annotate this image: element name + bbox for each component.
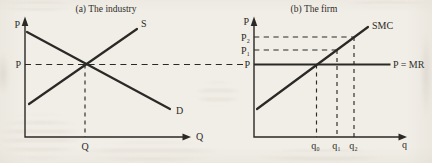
demand-curve-label: D	[176, 105, 183, 116]
smc-curve-label: SMC	[372, 20, 393, 31]
panel-firm-title: (b) The firm	[291, 4, 338, 15]
panel-firm: (b) The firm P q P₂ P₁ P q₀ q₁ q₂ P = MR	[241, 4, 425, 151]
panel-industry-title: (a) The industry	[75, 4, 136, 15]
supply-curve	[29, 29, 137, 104]
industry-x-axis-label: Q	[196, 131, 204, 142]
industry-price-tick-label: P	[15, 59, 21, 70]
firm-q1-tick-label: q₁	[332, 140, 341, 151]
firm-q2-tick-label: q₂	[349, 140, 358, 151]
firm-y-axis-arrow-icon	[251, 17, 258, 27]
firm-p1-tick-label: P₁	[241, 45, 250, 56]
firm-p2-tick-label: P₂	[241, 32, 250, 43]
supply-curve-label: S	[141, 18, 147, 29]
demand-curve	[27, 32, 170, 109]
industry-y-axis-label: P	[14, 19, 20, 30]
firm-y-axis-label: P	[243, 16, 249, 27]
industry-y-axis-arrow-icon	[22, 17, 29, 27]
firm-x-axis-label: q	[402, 139, 407, 150]
smc-curve	[257, 27, 368, 109]
firm-price-tick-label: P	[244, 59, 250, 70]
industry-quantity-tick-label: Q	[81, 141, 89, 152]
firm-axes	[254, 22, 399, 137]
textbook-figure-page: (a) The industry P Q P Q S D (b) The fir…	[0, 0, 432, 163]
industry-x-axis-arrow-icon	[183, 134, 192, 141]
industry-axes	[25, 22, 183, 137]
firm-q0-tick-label: q₀	[311, 140, 320, 151]
price-mr-label: P = MR	[393, 59, 425, 70]
supply-demand-diagram: (a) The industry P Q P Q S D (b) The fir…	[0, 0, 432, 163]
panel-industry: (a) The industry P Q P Q S D	[14, 4, 243, 152]
